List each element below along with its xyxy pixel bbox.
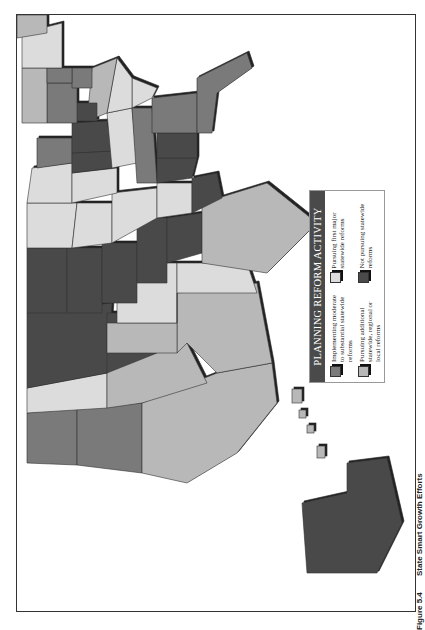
state-ga — [152, 93, 197, 133]
state-il — [72, 168, 117, 203]
figure-frame: PLANNING REFORM ACTIVITY Implementing mo… — [16, 14, 416, 612]
state-fl — [197, 53, 252, 133]
state-nd — [27, 248, 67, 313]
legend-item-implementing: Implementing moderate to substantial sta… — [330, 290, 354, 378]
figure-caption: Figure 5.4 State Smart Growth Efforts — [415, 0, 425, 630]
swatch-not-pursuing — [358, 273, 369, 284]
swatch-additional — [358, 366, 369, 377]
state-ar — [157, 183, 192, 218]
rotated-figure: PLANNING REFORM ACTIVITY Implementing mo… — [17, 15, 417, 613]
state-ms — [157, 158, 197, 183]
state-wi — [27, 163, 72, 203]
state-pa — [47, 83, 77, 123]
state-al — [157, 133, 197, 158]
state-ks — [137, 218, 167, 283]
state-nj — [47, 68, 72, 83]
legend-title: PLANNING REFORM ACTIVITY — [310, 191, 325, 382]
state-sd — [67, 248, 102, 313]
figure-title: State Smart Growth Efforts — [415, 473, 424, 576]
state-or — [77, 403, 142, 473]
state-ut — [107, 323, 177, 353]
state-ne — [102, 243, 137, 303]
state-ok — [167, 213, 202, 263]
legend: PLANNING REFORM ACTIVITY Implementing mo… — [309, 190, 385, 383]
state-wa — [27, 408, 77, 465]
swatch-first-major — [330, 273, 341, 284]
legend-item-first-major: Pursuing first major statewide reforms — [330, 196, 354, 284]
state-ak — [302, 458, 402, 573]
state-ny — [22, 68, 47, 123]
state-mn — [27, 203, 77, 248]
state-md — [72, 68, 92, 88]
state-oh — [72, 121, 112, 153]
swatch-implementing — [330, 366, 341, 377]
figure-label: Figure 5.4 — [415, 592, 424, 630]
state-mi — [37, 138, 72, 168]
state-hi — [292, 389, 325, 458]
state-ia — [72, 203, 112, 248]
legend-item-not-pursuing: Not pursuing statewide reforms — [358, 196, 382, 284]
legend-item-additional: Pursuing additional statewide, regional … — [358, 290, 382, 378]
